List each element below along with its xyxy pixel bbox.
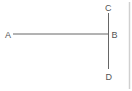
- label-c: C: [105, 3, 112, 13]
- label-d: D: [106, 72, 113, 82]
- label-b: B: [112, 30, 118, 40]
- diagram-canvas: A B C D: [0, 0, 132, 91]
- label-a: A: [5, 30, 11, 40]
